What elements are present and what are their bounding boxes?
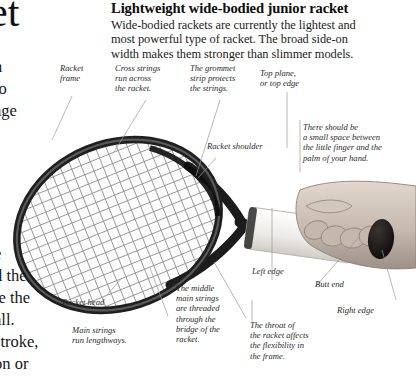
- annotation-racket-head: Racket head: [62, 297, 104, 307]
- annotation-racket-frame: Racket frame: [60, 63, 83, 83]
- annotation-finger-space: There should be a small space between th…: [303, 122, 382, 163]
- annotation-throat-flexibility: The throat of the racket affects the fle…: [250, 320, 309, 361]
- reference-page: ket n to age e d the le the all. stroke,…: [0, 0, 416, 388]
- section-title: Lightweight wide-bodied junior racket: [111, 1, 411, 16]
- annotation-middle-main-strings: The middle main strings are threaded thr…: [176, 283, 220, 344]
- annotation-cross-strings: Cross strings run across the racket.: [115, 63, 160, 94]
- annotation-main-strings: Main strings run lengthways.: [72, 325, 127, 345]
- annotation-right-edge: Right edge: [337, 305, 374, 315]
- cut-off-lower-text: e d the le the all. stroke, on or: [0, 243, 38, 375]
- annotation-butt-end: Butt end: [315, 279, 344, 289]
- annotation-grommet-strip: The grommet strip protects the strings.: [190, 63, 235, 94]
- section-heading-block: Lightweight wide-bodied junior racket Wi…: [111, 1, 411, 61]
- annotation-top-plane: Top plane, or top edge: [260, 68, 299, 88]
- annotation-racket-shoulder: Racket shoulder: [207, 141, 263, 151]
- cut-off-title-fragment: ket: [0, 0, 19, 36]
- annotation-left-edge: Left edge: [252, 266, 284, 276]
- section-intro-text: Wide-bodied rackets are currently the li…: [111, 18, 411, 61]
- cut-off-upper-text: n to age: [0, 56, 17, 122]
